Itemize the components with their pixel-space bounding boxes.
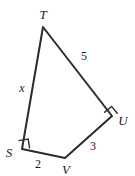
side-length-label-tu: 5 <box>81 50 87 62</box>
side-length-label-st: x <box>19 82 24 94</box>
geometry-figure: T U V S 5 3 2 x <box>0 0 135 176</box>
vertex-label-s: S <box>6 146 13 159</box>
vertex-label-v: V <box>62 163 70 176</box>
vertex-label-u: U <box>118 114 127 127</box>
side-length-label-vs: 2 <box>35 158 41 170</box>
side-length-label-uv: 3 <box>90 140 96 152</box>
vertex-label-t: T <box>39 8 46 21</box>
quadrilateral-outline <box>22 27 112 158</box>
